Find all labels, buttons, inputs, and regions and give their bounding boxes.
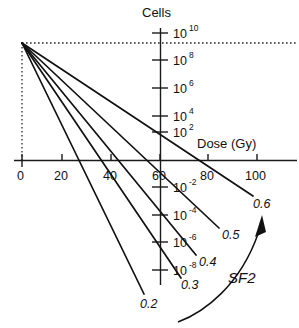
- curve-label-02: 0.2: [140, 297, 157, 311]
- y-tick-label-10e10-exp: 10: [189, 23, 199, 33]
- y-tick-label-10e6-base: 10: [173, 82, 187, 96]
- y-tick-label-10e8-base: 10: [173, 54, 187, 68]
- x-axis-title: Dose (Gy): [197, 136, 256, 151]
- y-tick-label-10em6-base: 10: [173, 236, 187, 250]
- y-tick-label-10e2-exp: 2: [189, 122, 194, 132]
- y-tick-label-10e6-exp: 6: [189, 78, 194, 88]
- y-tick-label-10e4-exp: 4: [189, 106, 194, 116]
- y-tick-label-10em8-exp: -8: [189, 260, 197, 270]
- y-tick-label-10em4-base: 10: [173, 209, 187, 223]
- curve-label-05: 0.5: [222, 228, 239, 242]
- y-tick-labels: 10 10 10 8 10 6 10 4 10 2 10 -2: [173, 23, 199, 278]
- curve-label-06: 0.6: [253, 197, 270, 211]
- y-axis-title: Cells: [142, 5, 171, 20]
- x-tick-label-40: 40: [103, 169, 117, 183]
- survival-line-sf2-05: [22, 43, 219, 228]
- y-tick-label-10em8: 10 -8: [173, 260, 197, 278]
- x-axis: [14, 154, 297, 167]
- sf2-arrow-head: [255, 215, 266, 237]
- x-tick-label-60: 60: [152, 169, 166, 183]
- x-tick-label-80: 80: [200, 169, 214, 183]
- y-tick-label-10e10: 10 10: [173, 23, 199, 41]
- y-tick-label-10e8-exp: 8: [189, 50, 194, 60]
- y-tick-label-10em4: 10 -4: [173, 205, 197, 223]
- x-tick-label-20: 20: [54, 169, 68, 183]
- y-tick-label-10em4-exp: -4: [189, 205, 197, 215]
- x-tick-label-100: 100: [245, 169, 266, 183]
- y-tick-label-10em2-exp: -2: [189, 177, 197, 187]
- y-tick-label-10em6-exp: -6: [189, 232, 197, 242]
- sf2-label: SF2: [228, 269, 256, 286]
- x-tick-label-0: 0: [17, 169, 24, 183]
- y-tick-label-10e10-base: 10: [173, 27, 187, 41]
- y-tick-label-10em6: 10 -6: [173, 232, 197, 250]
- y-tick-label-10e6: 10 6: [173, 78, 194, 96]
- y-tick-label-10e8: 10 8: [173, 50, 194, 68]
- curve-label-03: 0.3: [181, 278, 198, 292]
- curve-label-04: 0.4: [199, 255, 216, 269]
- y-tick-label-10e2-base: 10: [173, 126, 187, 140]
- y-tick-label-10em2-base: 10: [173, 181, 187, 195]
- y-tick-label-10em2: 10 -2: [173, 177, 197, 195]
- y-tick-label-10em8-base: 10: [173, 264, 187, 278]
- y-tick-label-10e4-base: 10: [173, 110, 187, 124]
- x-tick-labels: 0 20 40 60 80 100: [17, 169, 266, 183]
- cell-survival-curve-figure: Cells Dose (Gy) 0 20 40 60 80 100 10 10 …: [0, 0, 299, 328]
- y-tick-label-10e2: 10 2: [173, 122, 194, 140]
- chart-canvas: Cells Dose (Gy) 0 20 40 60 80 100 10 10 …: [0, 0, 299, 328]
